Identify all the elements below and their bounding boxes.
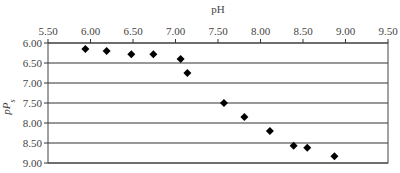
x-axis-title: pH	[211, 3, 225, 15]
diamond-marker	[220, 99, 228, 107]
diamond-marker	[81, 45, 89, 53]
diamond-marker	[266, 127, 274, 135]
y-tick-label: 7.00	[23, 77, 43, 89]
x-tick-label: 9.50	[378, 25, 398, 37]
diamond-marker	[330, 152, 338, 160]
y-axis-title-main: pP	[0, 102, 12, 116]
x-tick-label: 7.00	[166, 25, 186, 37]
x-tick-label: 8.50	[293, 25, 313, 37]
x-tick-label: 6.00	[81, 25, 101, 37]
x-tick-label: 8.00	[251, 25, 271, 37]
x-tick-label: 6.50	[123, 25, 143, 37]
diamond-marker	[177, 55, 185, 63]
y-tick-label: 7.50	[23, 97, 43, 109]
x-tick-label: 9.00	[336, 25, 356, 37]
y-axis-title: pPs	[0, 99, 17, 115]
y-tick-label: 8.00	[23, 117, 43, 129]
y-axis-left: 6.006.507.007.508.008.509.00	[23, 37, 48, 169]
diamond-marker	[103, 47, 111, 55]
y-tick-label: 6.00	[23, 37, 43, 49]
horizontal-gridlines	[48, 43, 388, 163]
x-tick-label: 7.50	[208, 25, 228, 37]
y-tick-label: 8.50	[23, 137, 43, 149]
diamond-marker	[303, 144, 311, 152]
diamond-marker	[149, 50, 157, 58]
y-tick-label: 9.00	[23, 157, 43, 169]
diamond-marker	[183, 69, 191, 77]
y-axis-title-subscript: s	[8, 99, 17, 102]
diamond-marker	[127, 50, 135, 58]
y-tick-label: 6.50	[23, 57, 43, 69]
diamond-marker	[240, 113, 248, 121]
x-tick-label: 5.50	[38, 25, 58, 37]
scatter-chart: 5.506.006.507.007.508.008.509.009.50 6.0…	[0, 0, 400, 173]
x-axis-top: 5.506.006.507.007.508.008.509.009.50	[38, 25, 398, 43]
